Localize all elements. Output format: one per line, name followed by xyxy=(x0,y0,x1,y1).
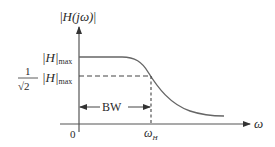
origin-label: 0 xyxy=(70,128,76,140)
x-axis-label: ω xyxy=(254,116,263,131)
half-power-numerator: 1 xyxy=(25,65,31,77)
max-label: |H|max xyxy=(42,50,72,66)
half-power-label: |H|max xyxy=(42,70,72,86)
y-axis-label: |H(jω)| xyxy=(60,9,96,24)
response-curve xyxy=(79,57,224,116)
half-power-denominator: √2 xyxy=(18,80,30,92)
bandwidth-label: BW xyxy=(102,100,122,114)
frequency-response-diagram: |H(jω)| |H|max 1 √2 |H|max BW 0 ωH ω xyxy=(0,0,275,147)
cutoff-label: ωH xyxy=(144,126,158,142)
